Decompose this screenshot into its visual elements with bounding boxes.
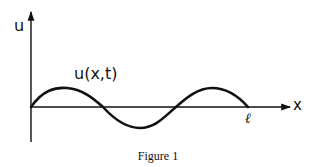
figure-caption: Figure 1 xyxy=(0,150,316,162)
function-label: u(x,t) xyxy=(74,66,117,82)
endpoint-label: ℓ xyxy=(245,111,251,125)
x-axis-label: x xyxy=(293,98,302,113)
wave-curve xyxy=(31,88,248,128)
wave-diagram xyxy=(0,0,316,167)
y-axis-label: u xyxy=(14,18,24,34)
